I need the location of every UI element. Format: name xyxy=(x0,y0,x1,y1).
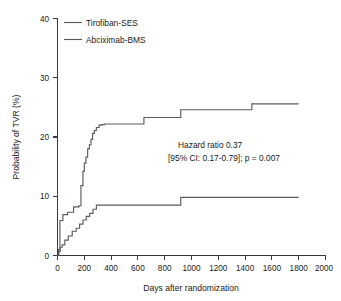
axis-group xyxy=(58,18,326,256)
confidence-interval-pvalue-text: [95% CI: 0.17-0.79]; p = 0.007 xyxy=(168,153,280,163)
x-tick-label: 1400 xyxy=(236,264,255,273)
x-tick-label: 200 xyxy=(77,264,91,273)
x-tick-label: 1800 xyxy=(290,264,309,273)
legend-label-abciximab-bms: Abciximab-BMS xyxy=(86,35,146,45)
hazard-ratio-text: Hazard ratio 0.37 xyxy=(178,140,243,150)
y-tick-label: 30 xyxy=(40,74,50,83)
y-tick-label: 10 xyxy=(40,192,50,201)
x-tick-label: 400 xyxy=(104,264,118,273)
x-tick-label: 0 xyxy=(55,264,60,273)
x-tick-label: 600 xyxy=(131,264,145,273)
kaplan-meier-figure: 0 10 20 30 40 0 200 400 600 800 1000 120 xyxy=(0,0,341,301)
x-axis-title: Days after randomization xyxy=(143,283,239,293)
y-axis-title: Probability of TVR (%) xyxy=(11,94,21,179)
curve-tirofiban-ses xyxy=(58,197,299,255)
x-tick-label: 1200 xyxy=(209,264,228,273)
y-tick-group: 0 10 20 30 40 xyxy=(40,15,58,261)
x-tick-label: 2000 xyxy=(315,264,334,273)
curve-abciximab-bms xyxy=(58,104,299,256)
legend-label-tirofiban-ses: Tirofiban-SES xyxy=(86,18,138,28)
legend: Tirofiban-SES Abciximab-BMS xyxy=(64,18,146,45)
y-tick-label: 0 xyxy=(44,252,49,261)
x-tick-label: 1600 xyxy=(263,264,282,273)
chart-canvas: 0 10 20 30 40 0 200 400 600 800 1000 120 xyxy=(0,0,341,301)
statistics-annotation: Hazard ratio 0.37 [95% CI: 0.17-0.79]; p… xyxy=(168,140,280,163)
x-tick-group: 0 200 400 600 800 1000 1200 1400 1600 18… xyxy=(55,256,333,274)
y-tick-label: 20 xyxy=(40,133,50,142)
x-tick-label: 800 xyxy=(158,264,172,273)
x-tick-label: 1000 xyxy=(182,264,201,273)
y-tick-label: 40 xyxy=(40,15,50,24)
